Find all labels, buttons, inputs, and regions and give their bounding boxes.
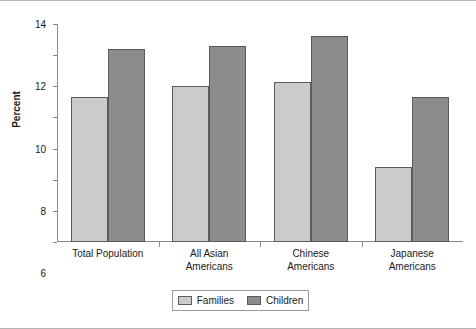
bar-children-1 <box>209 46 246 242</box>
y-tick-label: 12 <box>35 81 46 92</box>
legend-swatch-families <box>178 296 192 305</box>
bar-chart-figure: Percent 02468101214 Total PopulationAll … <box>0 0 476 329</box>
legend-item-families[interactable]: Families <box>178 295 234 306</box>
category-label-line: Americans <box>159 261 261 274</box>
y-tick-mark: 2 <box>53 211 57 212</box>
category-label-2: ChineseAmericans <box>260 248 362 273</box>
y-tick-mark: 4 <box>53 180 57 181</box>
category-label-line: Americans <box>260 261 362 274</box>
bar-children-0 <box>108 49 145 242</box>
y-tick-mark: 8 <box>53 117 57 118</box>
x-tick-mark <box>362 242 363 247</box>
category-label-line: All Asian <box>159 248 261 261</box>
category-label-0: Total Population <box>57 248 159 261</box>
y-tick-label: 6 <box>40 268 46 279</box>
x-tick-mark <box>260 242 261 247</box>
bar-children-3 <box>412 97 449 242</box>
bar-children-2 <box>311 36 348 242</box>
legend-label: Children <box>266 295 303 306</box>
bar-families-3 <box>375 167 412 242</box>
category-label-line: Americans <box>362 261 464 274</box>
y-tick-mark: 10 <box>53 86 57 87</box>
legend-swatch-children <box>247 296 261 305</box>
category-label-line: Chinese <box>260 248 362 261</box>
category-label-line: Total Population <box>57 248 159 261</box>
plot-area: 02468101214 <box>57 24 463 242</box>
y-axis-title: Percent <box>11 75 22 145</box>
y-tick-label: 8 <box>40 205 46 216</box>
x-tick-mark <box>159 242 160 247</box>
category-label-line: Japanese <box>362 248 464 261</box>
bar-families-2 <box>274 82 311 242</box>
chart-legend: FamiliesChildren <box>172 290 309 311</box>
y-tick-mark: 14 <box>53 24 57 25</box>
bar-families-0 <box>71 97 108 242</box>
y-tick-mark: 0 <box>53 242 57 243</box>
y-tick-mark: 12 <box>53 55 57 56</box>
legend-label: Families <box>197 295 234 306</box>
bar-families-1 <box>172 86 209 242</box>
legend-item-children[interactable]: Children <box>247 295 303 306</box>
y-tick-mark: 6 <box>53 149 57 150</box>
y-tick-label: 10 <box>35 143 46 154</box>
category-label-1: All AsianAmericans <box>159 248 261 273</box>
category-label-3: JapaneseAmericans <box>362 248 464 273</box>
y-tick-label: 14 <box>35 19 46 30</box>
